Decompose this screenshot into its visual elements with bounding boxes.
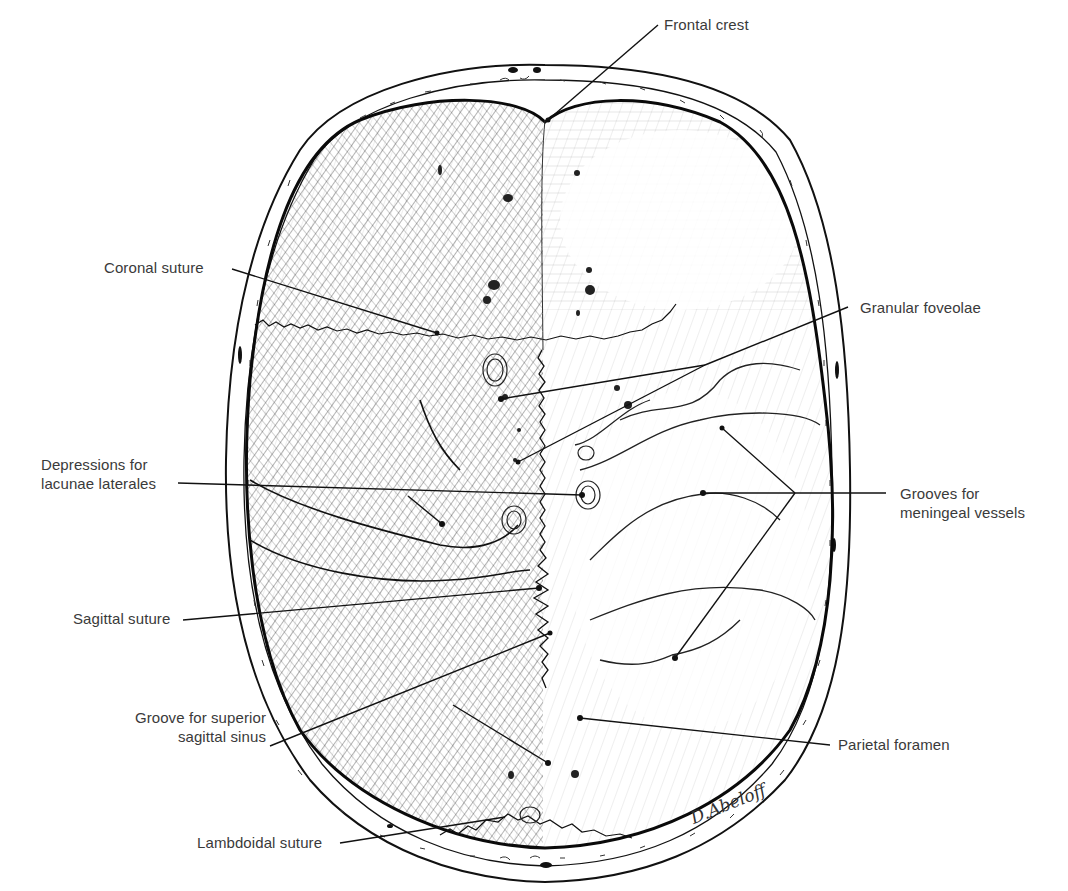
skull-cap-illustration <box>0 0 1068 891</box>
label-coronal-suture: Coronal suture <box>104 258 204 277</box>
inner-surface <box>200 90 900 870</box>
label-granular-foveolae: Granular foveolae <box>860 298 981 317</box>
label-lambdoidal-suture: Lambdoidal suture <box>197 833 322 852</box>
label-depressions-line2: lacunae laterales <box>41 474 156 493</box>
label-groove-line2: sagittal sinus <box>90 727 266 746</box>
label-grooves-line2: meningeal vessels <box>900 503 1025 522</box>
label-groove-line1: Groove for superior <box>90 708 266 727</box>
label-depressions-for-lacunae-laterales: Depressions for lacunae laterales <box>41 455 156 493</box>
label-depressions-line1: Depressions for <box>41 455 156 474</box>
label-frontal-crest: Frontal crest <box>664 15 749 34</box>
label-parietal-foramen: Parietal foramen <box>838 735 950 754</box>
label-sagittal-suture: Sagittal suture <box>73 609 170 628</box>
label-grooves-for-meningeal-vessels: Grooves for meningeal vessels <box>900 484 1025 522</box>
label-groove-superior-sagittal-sinus: Groove for superior sagittal sinus <box>90 708 266 746</box>
label-grooves-line1: Grooves for <box>900 484 1025 503</box>
